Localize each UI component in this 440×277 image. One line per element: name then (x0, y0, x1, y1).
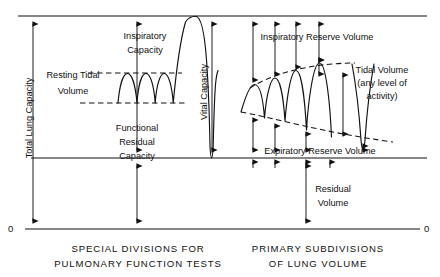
residual-volume-label-line2: Volume (318, 198, 349, 208)
right-panel-graphics (241, 63, 393, 150)
right-maximal-expiration-trace (352, 64, 374, 150)
residual-volume-label-line1: Residual (315, 184, 351, 194)
resting-tidal-volume-label-line1: Resting Tidal (46, 70, 99, 80)
functional-residual-capacity-label-line1: Functional (116, 123, 158, 133)
spirogram-svg: Total Lung Capacity Resting Tidal Volume… (0, 0, 440, 277)
zero-label-left: 0 (8, 223, 13, 234)
inspiratory-capacity-label-line1: Inspiratory (124, 31, 167, 41)
functional-residual-capacity-label-line3: Capacity (119, 151, 155, 161)
reference-lines (18, 16, 427, 229)
right-spirogram-trace (241, 63, 332, 137)
expiratory-reserve-volume-arrows (253, 120, 363, 168)
tidal-volume-label-line3: activity) (366, 91, 397, 101)
lung-volumes-figure: Total Lung Capacity Resting Tidal Volume… (0, 0, 440, 277)
zero-label-right: 0 (424, 223, 429, 234)
total-lung-capacity-label: Total Lung Capacity (24, 77, 34, 158)
left-caption-line2: PULMONARY FUNCTION TESTS (54, 258, 222, 269)
tidal-volume-label-line1: Tidal Volume (356, 65, 409, 75)
expiratory-envelope-dashed (241, 112, 393, 142)
vital-capacity-label: Vital Capacity (199, 64, 209, 120)
inspiratory-reserve-volume-label: Inspiratory Reserve Volume (261, 32, 374, 42)
functional-residual-capacity-label-line2: Residual (119, 137, 155, 147)
resting-tidal-volume-label-line2: Volume (58, 86, 89, 96)
right-caption-line2: OF LUNG VOLUME (269, 258, 367, 269)
tidal-volume-label-line2: (any level of (357, 78, 407, 88)
inspiratory-capacity-label-line2: Capacity (127, 45, 163, 55)
expiratory-reserve-volume-label: Expiratory Reserve Volume (264, 146, 375, 156)
right-caption-line1: PRIMARY SUBDIVISIONS (252, 243, 384, 254)
left-caption-line1: SPECIAL DIVISIONS FOR (71, 243, 204, 254)
